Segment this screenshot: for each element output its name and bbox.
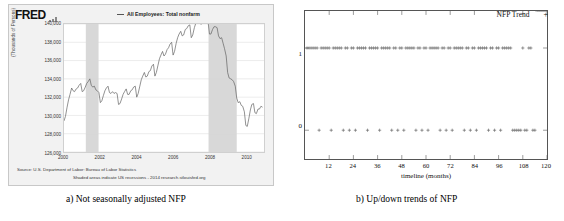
caption-figure-a: a) Not seasonally adjusted NFP xyxy=(66,194,186,204)
fred-chart-panel: FRED All Employees: Total nonfarm (Thous… xyxy=(8,4,274,186)
x-tick-label: 108 xyxy=(519,162,529,169)
x-axis-ticks-b: 12 24 36 48 60 72 84 96 108 120 xyxy=(304,162,548,172)
nfp-trend-plot-area xyxy=(304,10,548,160)
y-tick-label: 0 xyxy=(299,122,303,130)
legend-plus-marker-icon: + xyxy=(543,10,548,19)
y-tick-label: 134,000 xyxy=(44,76,61,81)
x-tick-label: 84 xyxy=(472,162,479,169)
figure-page: FRED All Employees: Total nonfarm (Thous… xyxy=(0,0,564,221)
chart-legend-a: All Employees: Total nonfarm xyxy=(117,11,200,17)
frame-ticks-b xyxy=(305,11,547,159)
x-tick-label: 48 xyxy=(398,162,405,169)
x-tick-label: 2002 xyxy=(95,155,105,160)
source-line-1: Source: U.S. Department of Labor: Bureau… xyxy=(17,167,136,172)
x-tick-label: 2004 xyxy=(131,155,141,160)
x-tick-label: 2010 xyxy=(242,155,252,160)
y-tick-label: 138,000 xyxy=(44,39,61,44)
x-tick-label: 12 xyxy=(325,162,332,169)
x-tick-label: 2006 xyxy=(168,155,178,160)
caption-figure-b: b) Up/down trends of NFP xyxy=(356,194,457,204)
y-axis-label-a: (Thousands of Persons) xyxy=(11,8,16,57)
y-tick-label: 132,000 xyxy=(44,95,61,100)
y-axis-ticks-a: 140,000 138,000 136,000 134,000 132,000 … xyxy=(27,23,61,153)
x-tick-label: 36 xyxy=(374,162,381,169)
x-tick-label: 60 xyxy=(423,162,430,169)
x-axis-ticks-a: 2000 2002 2004 2006 2008 2010 xyxy=(63,155,265,165)
chart-legend-b: NFP Trend+ xyxy=(497,10,548,19)
x-tick-label: 2000 xyxy=(58,155,68,160)
y-tick-label: 130,000 xyxy=(44,113,61,118)
legend-line-marker-icon xyxy=(117,14,124,15)
fred-series-svg xyxy=(64,24,264,152)
fred-plot-area xyxy=(63,23,265,153)
legend-label-a: All Employees: Total nonfarm xyxy=(127,11,200,17)
y-tick-label: 136,000 xyxy=(44,58,61,63)
source-line-2: Shaded areas indicate US recessions - 20… xyxy=(73,175,206,180)
y-tick-label: 140,000 xyxy=(44,21,61,26)
x-tick-label: 96 xyxy=(496,162,503,169)
x-tick-label: 24 xyxy=(350,162,357,169)
x-tick-label: 2008 xyxy=(205,155,215,160)
nfp-trend-panel: 1 0 NFP Trend+ 12 24 36 48 60 72 84 96 1… xyxy=(292,4,556,186)
y-tick-label: 128,000 xyxy=(44,132,61,137)
nfp-trend-svg xyxy=(305,11,547,159)
x-tick-label: 120 xyxy=(541,162,551,169)
x-tick-label: 72 xyxy=(447,162,454,169)
legend-label-b: NFP Trend xyxy=(497,10,530,19)
x-axis-label-b: timeline (months) xyxy=(304,172,548,180)
y-axis-ticks-b: 1 0 xyxy=(292,10,302,160)
nfp-trend-markers xyxy=(305,11,547,132)
fred-logo: FRED xyxy=(15,9,46,21)
y-tick-label: 1 xyxy=(299,50,303,58)
